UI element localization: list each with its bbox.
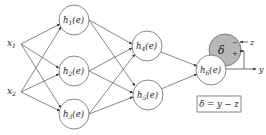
node-h2: h2(e) xyxy=(59,56,89,86)
svg-text:h3(e): h3(e) xyxy=(63,109,84,120)
output-connections xyxy=(161,52,197,89)
svg-text:h2(e): h2(e) xyxy=(63,66,84,77)
neural-network-diagram: δ − + h6(e) z y x1 x2 h1(e) h2(e) h3(e) … xyxy=(0,0,266,135)
svg-text:h4(e): h4(e) xyxy=(136,41,157,52)
minus-sign: − xyxy=(232,39,238,47)
hidden-connections xyxy=(89,20,135,114)
node-h5: h5(e) xyxy=(133,80,163,110)
node-h4: h4(e) xyxy=(132,31,162,61)
output-label-y: y xyxy=(258,65,264,74)
input-x1: x1 xyxy=(7,38,16,49)
formula-text: δ = y − z xyxy=(199,99,239,109)
svg-text:h5(e): h5(e) xyxy=(137,90,158,101)
node-h3: h3(e) xyxy=(59,99,89,129)
delta-symbol: δ xyxy=(218,44,225,57)
svg-text:h1(e): h1(e) xyxy=(63,15,84,26)
svg-text:h6(e): h6(e) xyxy=(200,65,221,76)
input-x2: x2 xyxy=(7,86,16,97)
node-h6: h6(e) xyxy=(196,55,226,85)
formula-box: δ = y − z xyxy=(197,96,241,112)
plus-sign: + xyxy=(232,50,238,58)
input-connections xyxy=(21,24,61,111)
target-label-z: z xyxy=(249,38,255,47)
node-h1: h1(e) xyxy=(59,5,89,35)
